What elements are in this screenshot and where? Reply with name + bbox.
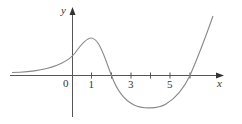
y-axis-arrow-icon bbox=[70, 7, 76, 15]
function-graph: y x 0 1 3 5 bbox=[0, 0, 242, 124]
tick-label-3: 3 bbox=[128, 78, 134, 90]
tick-label-1: 1 bbox=[89, 78, 95, 90]
origin-label: 0 bbox=[63, 77, 69, 89]
function-curve bbox=[12, 16, 213, 108]
tick-label-5: 5 bbox=[167, 78, 173, 90]
y-axis-label: y bbox=[60, 4, 66, 16]
x-axis-label: x bbox=[216, 77, 222, 89]
